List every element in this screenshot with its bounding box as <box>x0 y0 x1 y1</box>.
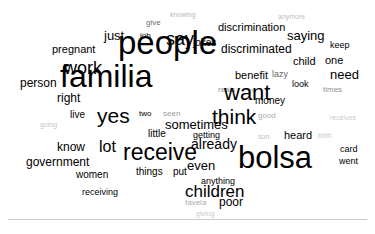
word-cloud-term: anything <box>201 177 235 186</box>
word-cloud-term: anymore <box>278 13 305 20</box>
word-cloud-term: favela <box>185 199 206 207</box>
word-cloud-term: live <box>70 110 85 120</box>
word-cloud-term: keep <box>330 41 350 50</box>
word-cloud-term: yes <box>97 105 130 126</box>
word-cloud-term: little <box>148 129 166 139</box>
word-cloud-term: in <box>248 87 253 94</box>
word-cloud-term: reais <box>218 86 235 94</box>
word-cloud-term: child <box>293 56 316 67</box>
word-cloud-term: say <box>166 30 194 48</box>
word-cloud-term: seen <box>163 110 180 118</box>
word-cloud-term: give <box>146 19 161 27</box>
word-cloud-term: work <box>64 59 102 77</box>
word-cloud-term: pregnant <box>52 44 95 55</box>
word-cloud-term: times <box>323 86 342 94</box>
word-cloud-term: person <box>20 77 57 89</box>
word-cloud-term: discriminated <box>221 43 292 55</box>
word-cloud-term: bolsa <box>238 142 312 173</box>
word-cloud-term: things <box>136 167 163 177</box>
word-cloud-term: giving <box>196 210 214 217</box>
word-cloud-term: to <box>172 153 177 159</box>
word-cloud-term: government <box>26 156 89 168</box>
word-cloud-term: job <box>140 32 151 40</box>
word-cloud-term: right <box>57 92 80 104</box>
word-cloud-term: lazy <box>272 70 288 79</box>
word-cloud-term: look <box>292 80 309 89</box>
word-cloud-term: women <box>76 170 108 180</box>
word-cloud-term: need <box>330 68 359 81</box>
word-cloud-term: heard <box>284 130 312 141</box>
word-cloud-term: good <box>258 112 276 120</box>
word-cloud-term: card <box>340 145 358 154</box>
word-cloud-term: son <box>258 133 269 140</box>
word-cloud-term: getting <box>193 131 220 140</box>
word-cloud-term: poor <box>219 196 243 208</box>
word-cloud-term: money <box>255 96 285 106</box>
word-cloud-term: one <box>325 55 343 66</box>
word-cloud-term: receives <box>330 114 356 121</box>
word-cloud-term: benefit <box>235 70 268 81</box>
word-cloud-term: just <box>104 29 124 42</box>
word-cloud-term: jokes <box>193 38 216 48</box>
word-cloud-term: receiving <box>82 188 118 197</box>
word-cloud-term: put <box>173 167 187 177</box>
word-cloud-term: saying <box>287 29 325 42</box>
word-cloud-canvas: peoplefamiliabolsareceivewantyesthinksay… <box>0 0 375 234</box>
word-cloud-term: knowing <box>170 11 196 18</box>
word-cloud-term: went <box>339 157 358 166</box>
word-cloud-term: even <box>187 159 215 172</box>
word-cloud-term: two <box>139 110 151 118</box>
word-cloud-term: discrimination <box>218 22 285 33</box>
word-cloud-term: know <box>57 141 85 153</box>
word-cloud-term: lot <box>99 139 116 155</box>
bottom-divider <box>8 219 367 220</box>
word-cloud-term: going <box>40 121 57 128</box>
word-cloud-term: birth <box>318 132 332 139</box>
